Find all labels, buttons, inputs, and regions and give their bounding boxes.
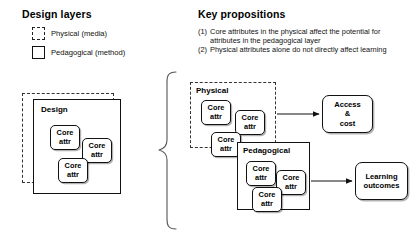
core-attr-chip: Core attr bbox=[50, 125, 80, 150]
outcome-box-access-cost: Access & cost bbox=[322, 95, 373, 133]
chip-line-2: attr bbox=[59, 138, 71, 146]
design-layers-title: Design layers bbox=[22, 8, 92, 20]
chip-line-2: attr bbox=[255, 174, 267, 182]
solid-square-icon bbox=[32, 46, 45, 59]
proposition-text-1: Core attributes in the physical affect t… bbox=[210, 27, 412, 45]
proposition-item-1: (1) Core attributes in the physical affe… bbox=[198, 27, 412, 45]
legend-item-physical: Physical (media) bbox=[32, 27, 107, 40]
proposition-number-1: (1) bbox=[198, 27, 207, 36]
chip-line-2: attr bbox=[210, 113, 222, 121]
core-attr-chip: Core attr bbox=[58, 158, 88, 183]
outcome-line-2: outcomes bbox=[364, 181, 400, 190]
core-attr-chip: Core attr bbox=[252, 187, 282, 212]
chip-line-2: attr bbox=[244, 123, 256, 131]
chip-line-2: attr bbox=[285, 183, 297, 191]
proposition-text-2: Physical attributes alone do not directl… bbox=[210, 45, 412, 54]
outcome-box-learning-outcomes: Learning outcomes bbox=[355, 162, 408, 200]
dashed-square-icon bbox=[32, 27, 45, 40]
outcome-line-2: & bbox=[345, 109, 350, 118]
key-propositions-title: Key propositions bbox=[198, 8, 285, 20]
left-curly-brace-icon bbox=[159, 72, 176, 229]
left-design-box-title: Design bbox=[41, 105, 68, 114]
core-attr-chip: Core attr bbox=[246, 161, 276, 186]
outcome-line-1: Learning bbox=[365, 172, 397, 181]
chip-line-2: attr bbox=[91, 151, 103, 159]
core-attr-chip: Core attr bbox=[235, 110, 265, 135]
proposition-item-2: (2) Physical attributes alone do not dir… bbox=[198, 45, 412, 54]
chip-line-2: attr bbox=[261, 200, 273, 208]
core-attr-chip: Core attr bbox=[201, 100, 231, 125]
pedagogical-layer-title: Pedagogical bbox=[243, 146, 290, 155]
legend-label-physical: Physical (media) bbox=[51, 30, 107, 38]
chip-line-2: attr bbox=[67, 171, 79, 179]
chip-line-2: attr bbox=[220, 145, 232, 153]
legend-label-pedagogical: Pedagogical (method) bbox=[51, 49, 125, 57]
physical-layer-title: Physical bbox=[196, 86, 228, 95]
outcome-line-3: cost bbox=[340, 119, 356, 128]
diagram-canvas: Design layers Physical (media) Pedagogic… bbox=[0, 0, 417, 240]
key-propositions-list: (1) Core attributes in the physical affe… bbox=[198, 27, 412, 55]
outcome-line-1: Access bbox=[334, 100, 361, 109]
proposition-number-2: (2) bbox=[198, 45, 207, 54]
legend-item-pedagogical: Pedagogical (method) bbox=[32, 46, 125, 59]
